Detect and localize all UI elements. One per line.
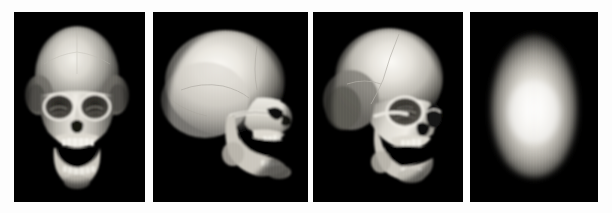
lateral-skull-render [153, 12, 308, 202]
anterior-skull-render [14, 12, 145, 202]
skull-ct-figure [0, 0, 612, 213]
panel-anterior-view [14, 12, 145, 202]
oblique-skull-render [313, 12, 463, 202]
panel-oblique-view [313, 12, 463, 202]
superior-skull-render [470, 12, 598, 202]
panel-superior-view [470, 12, 598, 202]
panel-lateral-view [153, 12, 308, 202]
